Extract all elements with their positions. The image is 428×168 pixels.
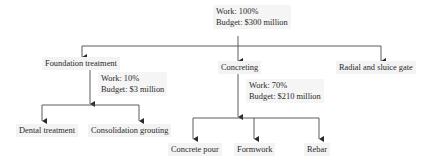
concreting-budget-note: Work: 70% Budget: $210 million (246, 79, 324, 103)
foundation-budget: Budget: $3 million (101, 84, 164, 95)
node-concrete-pour: Concrete pour (168, 143, 222, 156)
root-budget: Budget: $300 million (216, 17, 288, 28)
node-concreting: Concreting (218, 61, 261, 74)
node-consolidation-grouting: Consolidation grouting (88, 124, 171, 137)
foundation-work: Work: 10% (101, 73, 164, 84)
root-budget-note: Work: 100% Budget: $300 million (213, 5, 291, 29)
node-dental-treatment: Dental treatment (16, 124, 78, 137)
node-rebar: Rebar (304, 143, 330, 156)
concreting-budget: Budget: $210 million (249, 91, 321, 102)
concreting-work: Work: 70% (249, 80, 321, 91)
root-work: Work: 100% (216, 6, 288, 17)
node-foundation-treatment: Foundation treatment (42, 57, 120, 70)
node-formwork: Formwork (234, 143, 275, 156)
foundation-budget-note: Work: 10% Budget: $3 million (98, 72, 167, 96)
node-radial-and-sluice-gate: Radial and sluice gate (336, 61, 416, 74)
